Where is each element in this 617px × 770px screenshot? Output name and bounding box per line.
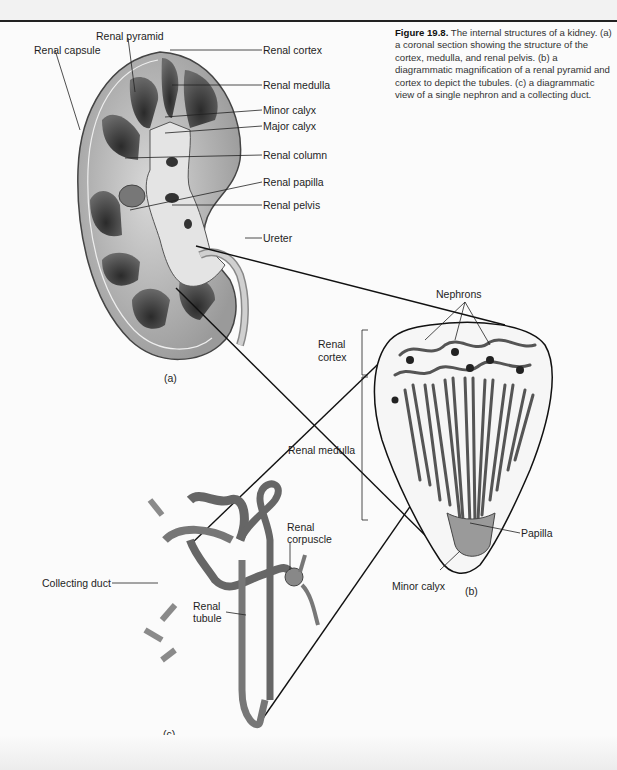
label-renal-tubule-1: Renal bbox=[193, 600, 220, 612]
label-b-renal-cortex-2: cortex bbox=[318, 351, 347, 363]
label-renal-pyramid: Renal pyramid bbox=[96, 30, 164, 42]
panel-a-label: (a) bbox=[164, 372, 177, 384]
label-papilla: Papilla bbox=[521, 527, 553, 539]
label-renal-pelvis: Renal pelvis bbox=[263, 199, 320, 211]
label-renal-corpuscle-2: corpuscle bbox=[287, 533, 332, 545]
label-renal-capsule: Renal capsule bbox=[34, 44, 101, 56]
label-major-calyx: Major calyx bbox=[263, 120, 316, 132]
label-minor-calyx: Minor calyx bbox=[263, 104, 316, 116]
label-ureter: Ureter bbox=[263, 232, 292, 244]
label-renal-corpuscle-1: Renal bbox=[287, 521, 314, 533]
page-bottom-margin bbox=[0, 735, 617, 770]
label-renal-column: Renal column bbox=[263, 149, 327, 161]
label-renal-medulla: Renal medulla bbox=[263, 79, 330, 91]
label-renal-tubule-2: tubule bbox=[193, 612, 222, 624]
label-renal-papilla: Renal papilla bbox=[263, 176, 324, 188]
panel-b-label: (b) bbox=[465, 585, 478, 597]
label-b-minor-calyx: Minor calyx bbox=[392, 580, 445, 592]
panel-a-kidney bbox=[78, 52, 245, 359]
label-renal-cortex: Renal cortex bbox=[263, 44, 322, 56]
label-b-renal-medulla: Renal medulla bbox=[288, 444, 355, 456]
label-b-renal-cortex-1: Renal bbox=[318, 338, 345, 350]
label-nephrons: Nephrons bbox=[436, 288, 482, 300]
label-collecting-duct: Collecting duct bbox=[42, 577, 111, 589]
